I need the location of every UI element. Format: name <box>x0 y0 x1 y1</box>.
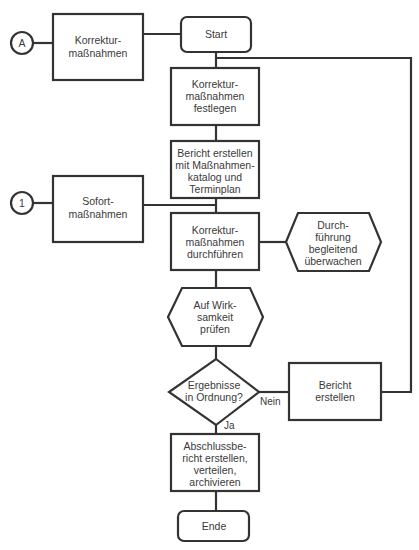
node-festlegen: Korrektur- maßnahmen festlegen <box>171 68 259 125</box>
svg-text:archivieren: archivieren <box>189 476 241 488</box>
node-start: Start <box>181 17 251 52</box>
svg-text:maßnahmen: maßnahmen <box>186 236 245 248</box>
svg-text:Korrektur-: Korrektur- <box>75 34 122 46</box>
svg-text:richt erstellen,: richt erstellen, <box>182 452 247 464</box>
svg-text:durchführen: durchführen <box>187 248 243 260</box>
svg-text:Sofort-: Sofort- <box>82 195 114 207</box>
node-bericht: Bericht erstellen <box>289 363 381 420</box>
svg-text:Abschlussbe-: Abschlussbe- <box>183 440 247 452</box>
svg-text:Durch-: Durch- <box>317 219 349 231</box>
svg-text:in Ordnung?: in Ordnung? <box>185 391 243 403</box>
svg-text:mit Maßnahmen-: mit Maßnahmen- <box>175 159 255 171</box>
svg-text:erstellen: erstellen <box>315 391 355 403</box>
svg-text:maßnahmen: maßnahmen <box>69 208 128 220</box>
node-ergebnisse-decision: Ergebnisse in Ordnung? <box>169 359 259 425</box>
svg-text:verteilen,: verteilen, <box>194 464 237 476</box>
svg-text:Terminplan: Terminplan <box>189 183 241 195</box>
node-ende: Ende <box>178 511 249 541</box>
svg-text:Korrektur-: Korrektur- <box>192 224 239 236</box>
node-ueberwachen: Durch- führung begleitend überwachen <box>286 213 381 271</box>
svg-text:katalog und: katalog und <box>188 171 242 183</box>
svg-text:maßnahmen: maßnahmen <box>69 47 128 59</box>
node-sofort: Sofort- maßnahmen <box>53 176 143 242</box>
node-korrektur: Korrektur- maßnahmen <box>53 14 143 80</box>
svg-text:Start: Start <box>205 28 227 40</box>
connector-1: 1 <box>11 192 33 214</box>
label-ja: Ja <box>224 420 235 431</box>
svg-text:A: A <box>18 37 25 49</box>
node-wirksamkeit: Auf Wirk- samkeit prüfen <box>168 288 263 346</box>
node-bericht-katalog: Bericht erstellen mit Maßnahmen- katalog… <box>171 141 259 198</box>
svg-text:samkeit: samkeit <box>197 311 233 323</box>
label-nein: Nein <box>260 396 281 407</box>
svg-text:Auf Wirk-: Auf Wirk- <box>193 299 237 311</box>
svg-text:begleitend: begleitend <box>309 243 358 255</box>
svg-text:Ende: Ende <box>202 520 227 532</box>
svg-text:Bericht: Bericht <box>319 379 352 391</box>
connector-a: A <box>11 32 33 54</box>
svg-text:festlegen: festlegen <box>194 102 237 114</box>
node-abschluss: Abschlussbe- richt erstellen, verteilen,… <box>171 434 259 491</box>
svg-text:überwachen: überwachen <box>304 255 361 267</box>
svg-text:führung: führung <box>315 231 351 243</box>
svg-text:1: 1 <box>19 197 25 209</box>
svg-text:maßnahmen: maßnahmen <box>186 90 245 102</box>
svg-text:prüfen: prüfen <box>200 323 230 335</box>
flowchart: A Korrektur- maßnahmen Start Korrektur- … <box>0 0 419 550</box>
svg-text:Ergebnisse: Ergebnisse <box>188 379 241 391</box>
svg-text:Korrektur-: Korrektur- <box>192 78 239 90</box>
node-durchfuehren: Korrektur- maßnahmen durchführen <box>171 213 259 270</box>
svg-text:Bericht erstellen: Bericht erstellen <box>177 147 252 159</box>
